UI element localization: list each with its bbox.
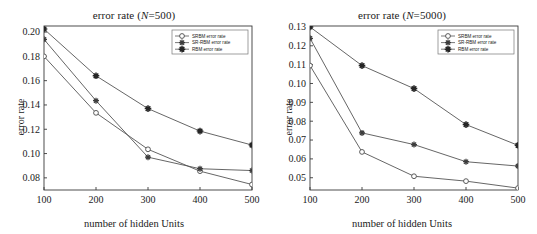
y-axis-ticks: 0.080.100.120.140.160.180.20 <box>23 26 48 183</box>
x-tick-label: 400 <box>193 194 208 205</box>
marker-plus-star-core <box>199 168 201 170</box>
marker-open-circle <box>446 34 451 39</box>
marker-filled-star-core <box>199 130 202 133</box>
plot-svg-right: 0.050.060.070.080.090.100.110.120.131002… <box>268 0 537 234</box>
y-axis-ticks: 0.050.060.070.080.090.100.110.120.13 <box>289 21 314 183</box>
series-open-circle <box>308 63 521 190</box>
y-tick-label: 0.11 <box>289 59 306 70</box>
chart-panel-left: error rate (N=500) error rate number of … <box>0 0 268 234</box>
y-tick-label: 0.05 <box>289 172 307 183</box>
marker-plus-star-core <box>251 170 253 172</box>
legend-item-label: RBM error rate <box>458 47 489 52</box>
marker-open-circle <box>464 179 469 184</box>
legend-item[interactable]: SR-RBM error rate <box>175 40 231 46</box>
marker-filled-star-core <box>447 48 450 51</box>
y-tick-label: 0.07 <box>289 134 307 145</box>
legend: SRBM error rateSR-RBM error rateRBM erro… <box>172 30 248 54</box>
x-tick-label: 100 <box>303 194 318 205</box>
marker-plus-star-core <box>43 38 45 40</box>
marker-filled-star-core <box>43 28 46 31</box>
y-tick-label: 0.12 <box>23 124 41 135</box>
figure-two-panel-line-charts: error rate (N=500) error rate number of … <box>0 0 537 234</box>
legend-item[interactable]: SRBM error rate <box>441 34 492 39</box>
marker-open-circle <box>42 54 47 59</box>
marker-filled-star-core <box>147 107 150 110</box>
y-tick-label: 0.08 <box>23 172 41 183</box>
x-tick-label: 500 <box>245 194 260 205</box>
marker-open-circle <box>180 34 185 39</box>
x-tick-label: 500 <box>511 194 526 205</box>
legend: SRBM error rateSR-RBM error rateRBM erro… <box>438 30 514 54</box>
y-tick-label: 0.18 <box>23 51 41 62</box>
marker-open-circle <box>146 147 151 152</box>
marker-plus-star-core <box>465 161 467 163</box>
y-tick-label: 0.08 <box>289 116 307 127</box>
y-tick-label: 0.06 <box>289 153 307 164</box>
marker-filled-star-core <box>361 64 364 67</box>
legend-item[interactable]: SR-RBM error rate <box>441 40 497 46</box>
legend-item[interactable]: RBM error rate <box>441 46 489 53</box>
series-line <box>310 66 518 189</box>
y-tick-label: 0.13 <box>289 21 307 32</box>
y-tick-label: 0.20 <box>23 26 41 37</box>
legend-item-label: SR-RBM error rate <box>192 40 231 45</box>
x-tick-label: 300 <box>407 194 422 205</box>
y-tick-label: 0.14 <box>23 99 41 110</box>
legend-item-label: SRBM error rate <box>192 34 226 39</box>
plot-svg-left: 0.080.100.120.140.160.180.20100200300400… <box>0 0 268 234</box>
chart-panel-right: error rate (N=5000) error rate number of… <box>268 0 536 234</box>
marker-plus-star-core <box>517 165 519 167</box>
y-tick-label: 0.10 <box>289 78 307 89</box>
y-tick-label: 0.12 <box>289 40 307 51</box>
legend-item[interactable]: SRBM error rate <box>175 34 226 39</box>
marker-plus-star-core <box>181 42 183 44</box>
legend-item-label: SR-RBM error rate <box>458 40 497 45</box>
marker-plus-star-core <box>309 37 311 39</box>
series-plus-star <box>41 36 255 173</box>
marker-open-circle <box>412 174 417 179</box>
marker-plus-star-core <box>361 132 363 134</box>
marker-open-circle <box>360 150 365 155</box>
marker-filled-star-core <box>413 87 416 90</box>
y-tick-label: 0.16 <box>23 75 41 86</box>
marker-filled-star-core <box>181 48 184 51</box>
marker-open-circle <box>308 63 313 68</box>
y-tick-label: 0.10 <box>23 148 41 159</box>
marker-open-circle <box>94 110 99 115</box>
marker-filled-star-core <box>465 123 468 126</box>
marker-plus-star-core <box>413 144 415 146</box>
legend-item-label: RBM error rate <box>192 47 223 52</box>
marker-filled-star-core <box>95 74 98 77</box>
x-tick-label: 200 <box>355 194 370 205</box>
marker-filled-star-core <box>251 144 254 147</box>
x-tick-label: 300 <box>141 194 156 205</box>
marker-open-circle <box>516 186 521 191</box>
marker-plus-star-core <box>147 156 149 158</box>
marker-open-circle <box>250 182 255 187</box>
x-tick-label: 100 <box>37 194 52 205</box>
x-tick-label: 400 <box>459 194 474 205</box>
legend-item-label: SRBM error rate <box>458 34 492 39</box>
marker-plus-star-core <box>447 42 449 44</box>
legend-item[interactable]: RBM error rate <box>175 46 223 53</box>
y-tick-label: 0.09 <box>289 97 307 108</box>
series-plus-star <box>307 35 521 169</box>
marker-filled-star-core <box>517 144 520 147</box>
marker-plus-star-core <box>95 100 97 102</box>
plot-area-left: 0.080.100.120.140.160.180.20100200300400… <box>0 0 268 234</box>
x-tick-label: 200 <box>89 194 104 205</box>
plot-area-right: 0.050.060.070.080.090.100.110.120.131002… <box>268 0 537 234</box>
